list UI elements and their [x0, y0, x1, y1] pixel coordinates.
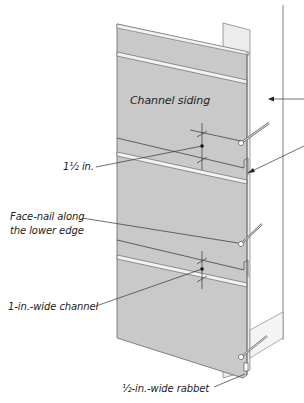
label-face-nail-line-1: Face-nail along: [10, 210, 85, 223]
arrowhead-sheathing: [268, 97, 274, 102]
sill-strip: [250, 312, 283, 358]
label-channel-siding: Channel siding: [130, 94, 210, 107]
label-reveal-dimension: 1½ in.: [63, 160, 94, 173]
label-channel-width: 1-in.-wide channel: [8, 300, 98, 313]
label-rabbet-width: ½-in.-wide rabbet: [122, 382, 209, 395]
label-face-nail-line-2: the lower edge: [10, 224, 84, 237]
siding-illustration: [0, 0, 304, 403]
bottom-rabbet: [244, 363, 248, 371]
siding-diagram: Channel siding 1½ in. Face-nail along th…: [0, 0, 304, 403]
